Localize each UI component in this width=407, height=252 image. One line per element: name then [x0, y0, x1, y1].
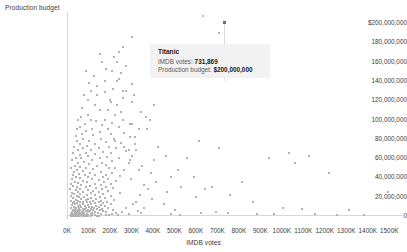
data-point[interactable]	[180, 186, 182, 188]
data-point[interactable]	[125, 207, 127, 209]
data-point[interactable]	[146, 128, 148, 130]
data-point[interactable]	[110, 101, 112, 103]
data-point[interactable]	[111, 122, 113, 124]
data-point[interactable]	[227, 212, 229, 214]
data-point[interactable]	[87, 99, 89, 101]
data-point[interactable]	[79, 166, 81, 168]
data-point[interactable]	[111, 160, 113, 162]
data-point[interactable]	[115, 147, 117, 149]
data-point[interactable]	[163, 203, 165, 205]
data-point[interactable]	[179, 214, 181, 216]
data-point[interactable]	[387, 191, 389, 193]
data-point[interactable]	[70, 195, 72, 197]
data-point[interactable]	[107, 178, 109, 180]
data-point[interactable]	[102, 210, 104, 212]
data-point[interactable]	[215, 211, 217, 213]
data-point[interactable]	[87, 215, 89, 217]
data-point[interactable]	[157, 146, 159, 148]
data-point[interactable]	[122, 46, 124, 48]
data-point[interactable]	[105, 164, 107, 166]
data-point[interactable]	[133, 94, 135, 96]
data-point[interactable]	[113, 199, 115, 201]
data-point[interactable]	[86, 201, 88, 203]
data-point[interactable]	[147, 188, 149, 190]
data-point[interactable]	[101, 61, 103, 63]
data-point[interactable]	[95, 187, 97, 189]
data-point[interactable]	[84, 174, 86, 176]
data-point[interactable]	[95, 198, 97, 200]
data-point[interactable]	[87, 155, 89, 157]
data-point[interactable]	[76, 215, 78, 217]
data-point[interactable]	[82, 138, 84, 140]
data-point[interactable]	[77, 149, 79, 151]
data-point[interactable]	[79, 126, 81, 128]
data-point[interactable]	[122, 119, 124, 121]
data-point[interactable]	[107, 109, 109, 111]
data-point[interactable]	[119, 192, 121, 194]
data-point[interactable]	[99, 109, 101, 111]
data-point[interactable]	[170, 213, 172, 215]
data-point[interactable]	[85, 167, 87, 169]
data-point[interactable]	[268, 157, 270, 159]
data-point[interactable]	[116, 80, 118, 82]
data-point[interactable]	[139, 194, 141, 196]
data-point[interactable]	[104, 80, 106, 82]
data-point[interactable]	[111, 70, 113, 72]
data-point[interactable]	[78, 173, 80, 175]
data-point[interactable]	[120, 72, 122, 74]
data-point[interactable]	[88, 140, 90, 142]
data-point[interactable]	[105, 141, 107, 143]
data-point[interactable]	[92, 134, 94, 136]
data-point[interactable]	[149, 119, 151, 121]
data-point[interactable]	[177, 169, 179, 171]
data-point[interactable]	[73, 171, 75, 173]
data-point[interactable]	[112, 187, 114, 189]
data-point[interactable]	[77, 162, 79, 164]
data-point[interactable]	[273, 213, 275, 215]
data-point[interactable]	[128, 213, 130, 215]
data-point[interactable]	[70, 200, 72, 202]
data-point[interactable]	[94, 143, 96, 145]
data-point[interactable]	[72, 174, 74, 176]
data-point[interactable]	[104, 205, 106, 207]
data-point[interactable]	[105, 186, 107, 188]
data-point[interactable]	[114, 140, 116, 142]
data-point[interactable]	[76, 140, 78, 142]
data-point[interactable]	[153, 159, 155, 161]
data-point[interactable]	[256, 213, 258, 215]
data-point[interactable]	[193, 176, 195, 178]
highlighted-data-point[interactable]	[223, 21, 226, 24]
data-point[interactable]	[165, 155, 167, 157]
data-point[interactable]	[363, 214, 365, 216]
data-point[interactable]	[83, 161, 85, 163]
data-point[interactable]	[69, 188, 71, 190]
data-point[interactable]	[76, 128, 78, 130]
data-point[interactable]	[74, 181, 76, 183]
data-point[interactable]	[117, 214, 119, 216]
data-point[interactable]	[125, 90, 127, 92]
data-point[interactable]	[151, 198, 153, 200]
data-point[interactable]	[72, 185, 74, 187]
data-point[interactable]	[143, 207, 145, 209]
data-point[interactable]	[102, 176, 104, 178]
data-point[interactable]	[90, 192, 92, 194]
data-point[interactable]	[107, 128, 109, 130]
data-point[interactable]	[229, 194, 231, 196]
data-point[interactable]	[104, 119, 106, 121]
data-point[interactable]	[140, 212, 142, 214]
data-point[interactable]	[84, 123, 86, 125]
data-point[interactable]	[89, 201, 91, 203]
data-point[interactable]	[75, 176, 77, 178]
data-point[interactable]	[91, 159, 93, 161]
data-point[interactable]	[102, 202, 104, 204]
data-point[interactable]	[110, 195, 112, 197]
data-point[interactable]	[82, 191, 84, 193]
data-point[interactable]	[140, 111, 142, 113]
data-point[interactable]	[294, 162, 296, 164]
data-point[interactable]	[110, 133, 112, 135]
data-point[interactable]	[90, 149, 92, 151]
data-point[interactable]	[74, 215, 76, 217]
data-point[interactable]	[174, 209, 176, 211]
data-point[interactable]	[98, 179, 100, 181]
data-point[interactable]	[218, 147, 220, 149]
